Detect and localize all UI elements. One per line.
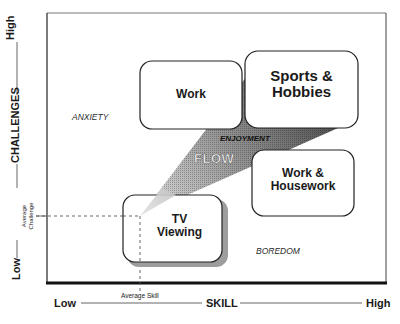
work-box-label: Work xyxy=(140,88,242,101)
x-axis-low-label: Low xyxy=(54,297,76,309)
work-housework-box-label: Work & Housework xyxy=(252,167,354,192)
tv-label-line2: Viewing xyxy=(130,226,229,239)
work-label-text: Work xyxy=(140,88,242,101)
anxiety-region-label: ANXIETY xyxy=(72,112,108,122)
sports-hobbies-box-label: Sports & Hobbies xyxy=(245,68,358,100)
average-challenge-text: Average Challenge xyxy=(21,196,35,236)
housework-label-line2: Housework xyxy=(252,180,354,193)
y-axis-title: CHALLENGES xyxy=(9,87,21,163)
sports-label-line1: Sports & xyxy=(245,68,358,84)
average-challenge-label: Average Challenge xyxy=(21,196,35,236)
y-axis-high-label: High xyxy=(4,16,16,40)
y-axis-low-label: Low xyxy=(10,258,22,280)
housework-label-line1: Work & xyxy=(252,167,354,180)
flow-region-label: FLOW xyxy=(194,151,234,166)
enjoyment-region-label: ENJOYMENT xyxy=(220,134,270,143)
tv-label-line1: TV xyxy=(130,213,229,226)
x-axis-title: SKILL xyxy=(206,297,238,309)
tv-viewing-box-label: TV Viewing xyxy=(130,213,229,238)
boredom-region-label: BOREDOM xyxy=(256,246,300,256)
average-skill-label: Average Skill xyxy=(121,292,159,299)
x-axis-high-label: High xyxy=(366,297,390,309)
sports-label-line2: Hobbies xyxy=(245,84,358,100)
